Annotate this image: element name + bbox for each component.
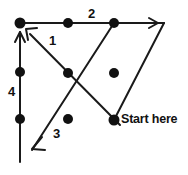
segment-label-2: 2 [88,7,95,20]
dot-diag-start-mid [109,68,119,78]
start-here-label: Start here [121,113,177,126]
segment-3-diagonal-line [32,23,114,150]
diagram-canvas: 1 2 3 4 Start here [0,0,188,175]
dot-top-mid-right [109,18,119,28]
segment-label-4: 4 [8,85,15,98]
segment-1-diagonal-line [30,34,120,125]
dot-diag3-mid [63,114,73,124]
segment-label-1: 1 [49,34,56,47]
dot-start-here [109,115,120,126]
dot-left-lower [15,114,25,124]
dot-top-left-corner [15,18,26,29]
dot-left-upper [15,67,25,77]
segment-label-3: 3 [53,127,60,140]
dot-top-mid-left [63,18,73,28]
dot-diag1-mid [63,68,73,78]
path-puzzle-figure [0,0,188,175]
segment-start-to-apex-line [114,23,164,120]
